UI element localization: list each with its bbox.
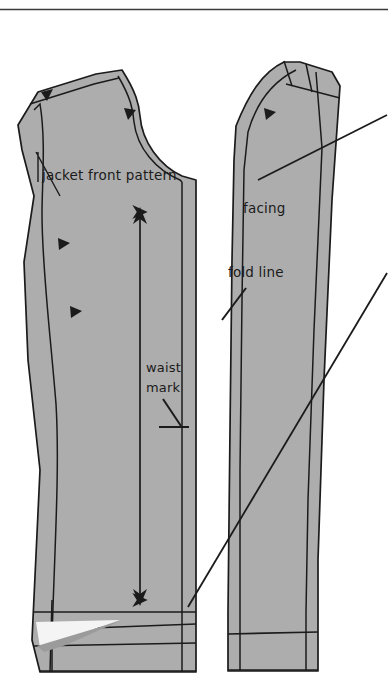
pattern-diagram-canvas: jacket front pattern facing fold line wa… <box>0 0 388 676</box>
label-facing: facing <box>243 200 286 216</box>
label-waist-mark-line2: mark <box>146 380 181 395</box>
label-jacket-front-pattern: jacket front pattern <box>41 167 177 183</box>
label-waist-mark-line1: waist <box>146 360 181 375</box>
front-facing-body <box>228 62 340 671</box>
label-fold-line: fold line <box>228 264 284 280</box>
piece-front-facing <box>228 61 340 671</box>
pattern-figure: jacket front pattern facing fold line wa… <box>0 0 388 676</box>
